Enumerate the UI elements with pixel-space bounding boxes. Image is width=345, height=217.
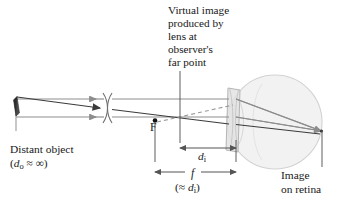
di-subscript: i <box>204 154 206 164</box>
diverging-eyeglass-lens <box>226 88 240 152</box>
do-value: ∞ <box>36 157 44 169</box>
retina-line-2: on retina <box>281 182 345 196</box>
caption-line-5: far point <box>168 56 266 69</box>
retina-line-1: Image <box>281 168 345 182</box>
do-subscript: o <box>20 161 24 171</box>
do-relation: ≈ <box>27 157 33 169</box>
caption-line-4: observer's <box>168 43 266 56</box>
focal-point-label: F <box>150 121 156 134</box>
distant-object-title: Distant object <box>10 142 130 156</box>
figure-canvas: Virtual image produced by lens at observ… <box>0 0 345 217</box>
distant-object-arrow <box>14 97 20 132</box>
eyeball-sphere <box>227 75 322 169</box>
incoming-parallel-rays-right <box>112 99 229 117</box>
distant-object-label: Distant object (do ≈ ∞) <box>10 142 130 173</box>
distant-object-expression: (do ≈ ∞) <box>10 156 130 173</box>
caption-line-3: lens at <box>168 30 266 43</box>
focal-length-note: (≈ di) <box>175 181 200 195</box>
image-distance-label: di <box>198 150 206 164</box>
axis-break-symbol <box>103 93 112 123</box>
fnote-relation: ≈ <box>179 181 185 193</box>
focal-length-label: f <box>191 167 194 180</box>
image-on-retina-label: Image on retina <box>281 168 345 196</box>
image-point-on-retina <box>320 129 323 132</box>
fnote-subscript: i <box>194 185 196 195</box>
incoming-parallel-rays-left <box>16 99 104 117</box>
virtual-image-caption: Virtual image produced by lens at observ… <box>168 4 266 69</box>
caption-line-2: produced by <box>168 17 266 30</box>
caption-line-1: Virtual image <box>168 4 266 17</box>
dimension-line-f <box>155 165 236 179</box>
